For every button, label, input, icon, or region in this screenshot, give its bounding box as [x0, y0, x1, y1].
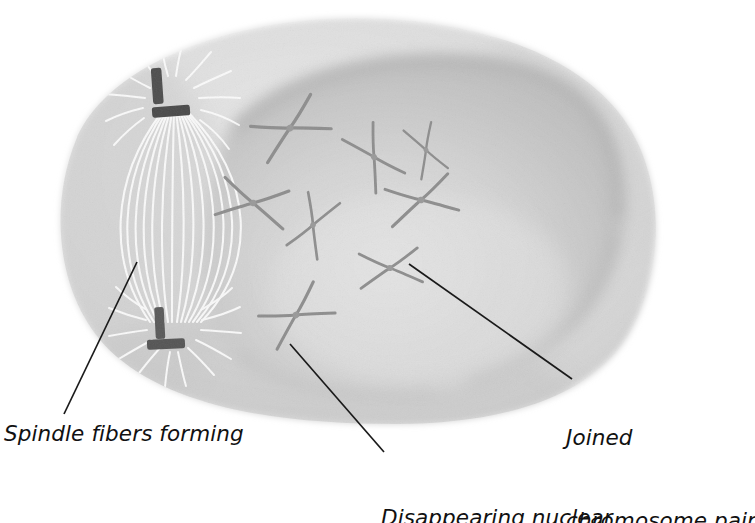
- spindle-fibers-label: Spindle fibers forming: [4, 420, 244, 448]
- joined-chromosome-pair-label: Joined chromosome pair: [566, 369, 755, 523]
- joined-chromosome-pair-label-line2: chromosome pair: [566, 507, 755, 523]
- joined-chromosome-pair-label-line1: Joined: [566, 424, 755, 452]
